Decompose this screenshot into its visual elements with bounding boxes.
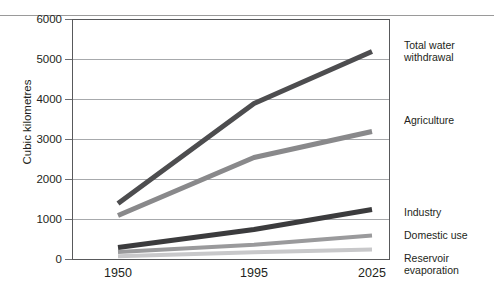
series-label-agriculture: Agriculture [404, 114, 494, 126]
series-label-line-1: Total water [404, 39, 494, 51]
series-line-industry [118, 210, 372, 248]
series-label-line-1: Domestic use [404, 229, 494, 241]
series-label-industry: Industry [404, 206, 494, 218]
x-tick-label-1995: 1995 [224, 266, 284, 280]
series-label-total-water-withdrawal: Total water withdrawal [404, 39, 494, 63]
water-withdrawal-line-chart: Cubic kilometres 01000200030004000500060… [0, 0, 494, 305]
series-label-reservoir-evaporation: Reservoir evaporation [404, 252, 494, 276]
series-label-line-1: Agriculture [404, 114, 494, 126]
x-tick-label-2025: 2025 [342, 266, 402, 280]
series-label-domestic-use: Domestic use [404, 229, 494, 241]
series-label-line-1: Reservoir [404, 252, 494, 264]
series-line-total-water-withdrawal [118, 52, 372, 204]
series-label-line-1: Industry [404, 206, 494, 218]
x-tick-label-1950: 1950 [88, 266, 148, 280]
series-label-line-2: evaporation [404, 264, 494, 276]
series-label-line-2: withdrawal [404, 51, 494, 63]
